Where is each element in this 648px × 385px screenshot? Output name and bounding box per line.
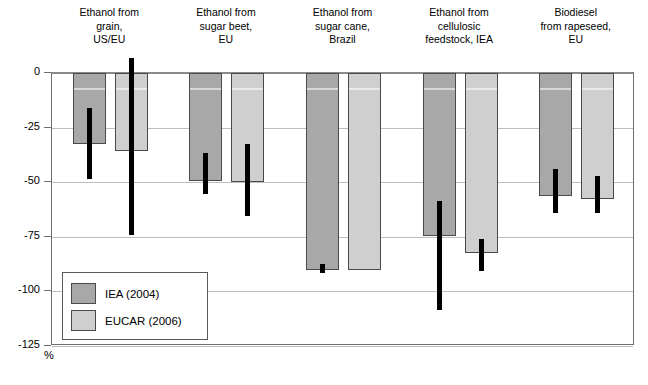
gridline xyxy=(52,237,633,238)
error-bar xyxy=(87,108,92,179)
bar-highlight xyxy=(190,88,221,90)
bar xyxy=(348,73,381,270)
legend-swatch-iea xyxy=(71,283,96,304)
gridline xyxy=(52,346,633,347)
y-tick-label: -125 xyxy=(0,339,40,350)
legend-swatch-eucar xyxy=(71,310,96,331)
category-label: Ethanol from cellulosic feedstock, IEA xyxy=(397,6,521,47)
legend-label-eucar: EUCAR (2006) xyxy=(105,315,182,327)
y-tick-label: -25 xyxy=(0,121,40,132)
y-tick-mark xyxy=(44,290,51,291)
y-tick-mark xyxy=(44,72,51,73)
bar-highlight xyxy=(349,88,380,90)
bar-highlight xyxy=(466,88,497,90)
bar-highlight xyxy=(540,88,571,90)
category-label: Ethanol from sugar beet, EU xyxy=(164,6,288,47)
y-tick-mark xyxy=(44,181,51,182)
error-bar xyxy=(479,239,484,271)
error-bar xyxy=(437,201,442,310)
error-bar xyxy=(245,144,250,216)
bar-highlight xyxy=(232,88,263,90)
y-axis-unit-label: % xyxy=(44,349,54,361)
error-bar xyxy=(203,153,208,194)
bar-highlight xyxy=(307,88,338,90)
y-tick-mark xyxy=(44,236,51,237)
bar xyxy=(465,73,498,253)
error-bar xyxy=(595,176,600,213)
bar-highlight xyxy=(424,88,455,90)
error-bar xyxy=(320,264,325,273)
bar xyxy=(306,73,339,270)
y-tick-label: -50 xyxy=(0,175,40,186)
legend: IEA (2004) EUCAR (2006) xyxy=(62,272,208,340)
category-label: Ethanol from sugar cane, Brazil xyxy=(281,6,405,47)
category-label: Ethanol from grain, US/EU xyxy=(47,6,171,47)
category-labels: Ethanol from grain, US/EUEthanol from su… xyxy=(0,0,648,72)
y-tick-label: 0 xyxy=(0,66,40,77)
legend-label-iea: IEA (2004) xyxy=(105,288,159,300)
y-tick-label: -100 xyxy=(0,284,40,295)
y-tick-label: -75 xyxy=(0,230,40,241)
ghg-savings-bar-chart: Ethanol from grain, US/EUEthanol from su… xyxy=(0,0,648,385)
bar-highlight xyxy=(582,88,613,90)
bar-highlight xyxy=(74,88,105,90)
error-bar xyxy=(553,169,558,213)
category-label: Biodiesel from rapeseed, EU xyxy=(514,6,638,47)
legend-item-eucar: EUCAR (2006) xyxy=(71,307,207,334)
legend-item-iea: IEA (2004) xyxy=(71,280,207,307)
y-tick-mark xyxy=(44,345,51,346)
error-bar xyxy=(129,58,134,235)
y-tick-mark xyxy=(44,127,51,128)
